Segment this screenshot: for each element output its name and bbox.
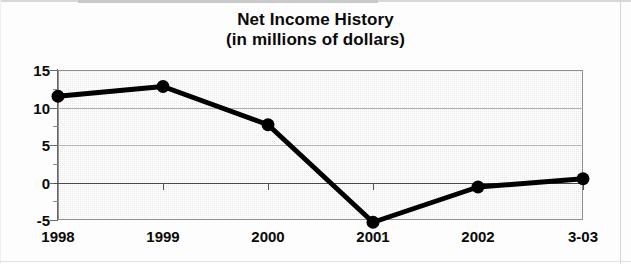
x-axis-tick-2000: [268, 183, 269, 190]
page-border-top-accent: [78, 0, 378, 3]
x-tick-label-2002: 2002: [461, 228, 494, 245]
y-major-tick--5: [50, 220, 58, 221]
y-major-tick-15: [50, 70, 58, 71]
x-axis-tick-2001: [373, 183, 374, 190]
y-tick-label-10: 10: [2, 99, 50, 116]
x-axis-tick-3-03: [583, 183, 584, 190]
chart-title: Net Income History: [0, 10, 631, 30]
page-border-bottom: [0, 261, 631, 262]
y-tick-label-5: 5: [2, 137, 50, 154]
x-axis-tick-1999: [163, 183, 164, 190]
x-tick-label-2000: 2000: [251, 228, 284, 245]
y-tick-label--5: -5: [2, 212, 50, 229]
y-major-tick-5: [50, 145, 58, 146]
x-tick-label-1998: 1998: [41, 228, 74, 245]
y-tick-label-0: 0: [2, 174, 50, 191]
gridline-y-10: [58, 108, 583, 109]
x-axis-labels: 199819992000200120023-03: [0, 228, 631, 254]
x-tick-label-2001: 2001: [356, 228, 389, 245]
x-axis-tick-2002: [478, 183, 479, 190]
x-tick-label-3-03: 3-03: [568, 228, 598, 245]
y-axis-labels: 151050-5: [0, 70, 50, 220]
chart-page: Net Income History (in millions of dolla…: [0, 0, 631, 264]
plot-area: [58, 70, 583, 220]
gridline-y-5: [58, 145, 583, 146]
y-major-tick-10: [50, 108, 58, 109]
x-tick-label-1999: 1999: [146, 228, 179, 245]
zero-line: [54, 183, 583, 184]
chart-title-block: Net Income History (in millions of dolla…: [0, 10, 631, 50]
chart-subtitle: (in millions of dollars): [0, 30, 631, 50]
y-tick-label-15: 15: [2, 62, 50, 79]
